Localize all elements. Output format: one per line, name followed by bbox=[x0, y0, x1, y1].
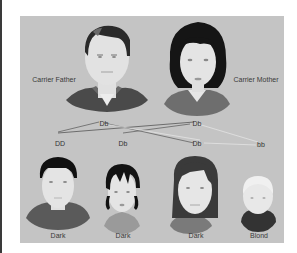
father-genotype: Db bbox=[100, 120, 109, 127]
mother-label: Carrier Mother bbox=[233, 76, 278, 83]
child1-genotype: DD bbox=[55, 140, 65, 147]
mother-portrait bbox=[164, 22, 230, 116]
father-label: Carrier Father bbox=[32, 76, 76, 83]
child2-portrait bbox=[104, 164, 140, 234]
child3-genotype: Db bbox=[193, 140, 202, 147]
child2-genotype: Db bbox=[119, 140, 128, 147]
child4-genotype: bb bbox=[257, 141, 265, 148]
child1-phenotype: Dark bbox=[51, 232, 66, 239]
inheritance-lines bbox=[58, 122, 258, 145]
child4-portrait bbox=[241, 176, 276, 232]
child3-phenotype: Dark bbox=[189, 232, 204, 239]
child1-portrait bbox=[26, 157, 90, 230]
pedigree-illustration bbox=[0, 0, 297, 253]
child4-phenotype: Blond bbox=[250, 232, 268, 239]
child3-portrait bbox=[170, 156, 218, 234]
father-portrait bbox=[66, 26, 148, 112]
child2-phenotype: Dark bbox=[116, 232, 131, 239]
mother-genotype: Db bbox=[193, 120, 202, 127]
